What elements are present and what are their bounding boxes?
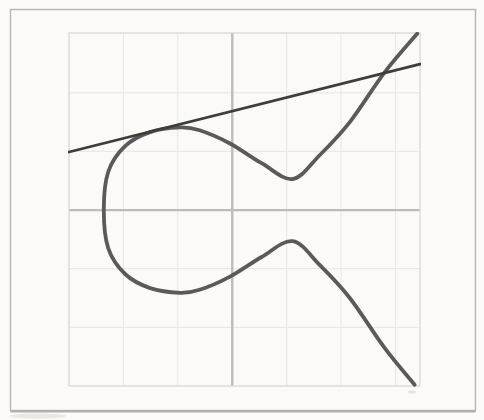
elliptic-curve-plot: [0, 0, 484, 420]
scan-smudge: [10, 414, 66, 419]
scanned-figure-page: [0, 0, 484, 420]
scan-speck: [408, 391, 416, 394]
